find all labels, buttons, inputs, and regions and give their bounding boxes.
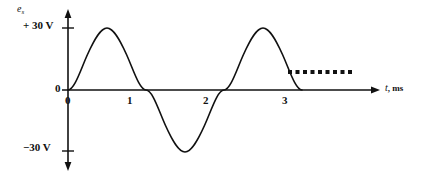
x-axis-quantity-label: t, ms — [385, 83, 403, 93]
y-tick-label-positive: + 30 V — [23, 20, 54, 31]
y-axis-quantity-label: es — [17, 4, 24, 16]
plot-canvas — [0, 0, 423, 181]
y-axis-quantity-subscript: s — [21, 8, 24, 16]
x-tick-label-1: 1 — [127, 95, 133, 106]
y-axis-arrow-up — [65, 9, 72, 18]
y-axis-arrow-down — [65, 162, 72, 171]
x-axis-unit-label: , ms — [388, 83, 404, 93]
waveform-figure: es + 30 V 0 −30 V 0 1 2 3 t, ms — [0, 0, 423, 181]
x-tick-label-0: 0 — [65, 95, 71, 106]
y-tick-label-negative: −30 V — [23, 142, 51, 153]
x-tick-label-2: 2 — [203, 95, 209, 106]
continuation-dots — [288, 70, 352, 74]
x-axis-arrow-right — [371, 87, 380, 94]
x-tick-label-3: 3 — [282, 95, 288, 106]
y-tick-label-zero: 0 — [55, 83, 61, 94]
